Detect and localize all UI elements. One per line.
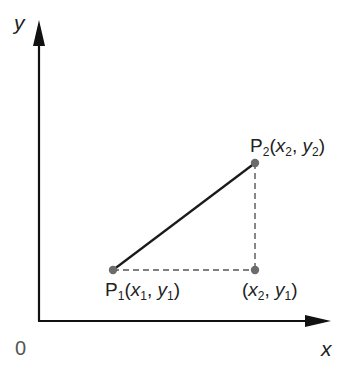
corner-y: y [275,279,285,300]
corner-x-sub: 2 [258,289,265,303]
comma: , [292,135,303,156]
label-p2: P2(x2, y2) [250,136,325,155]
comma: , [265,279,276,300]
p1-y: y [157,279,167,300]
segment-p1-p2 [113,163,255,270]
y-axis-label: y [14,12,25,33]
point-p2 [251,159,259,167]
comma: , [147,279,158,300]
paren: ) [174,279,180,300]
label-corner: (x2, y1) [242,280,298,299]
x-axis-label: x [321,338,332,359]
p2-x-sub: 2 [285,145,292,159]
p1-x-sub: 1 [140,289,147,303]
p2-y-sub: 2 [312,145,319,159]
point-corner [251,266,259,274]
label-p1: P1(x1, y1) [105,280,180,299]
point-p1 [109,266,117,274]
p1-x: x [131,279,141,300]
p2-name: P [250,135,263,156]
p2-x: x [276,135,286,156]
x-axis-arrowhead [305,315,331,327]
corner-x: x [248,279,258,300]
coordinate-diagram [0,0,355,379]
paren: ) [319,135,325,156]
paren: ) [291,279,297,300]
origin-label: 0 [15,338,26,358]
p2-y: y [302,135,312,156]
y-axis-arrowhead [33,20,45,46]
p1-y-sub: 1 [167,289,174,303]
p1-name: P [105,279,118,300]
